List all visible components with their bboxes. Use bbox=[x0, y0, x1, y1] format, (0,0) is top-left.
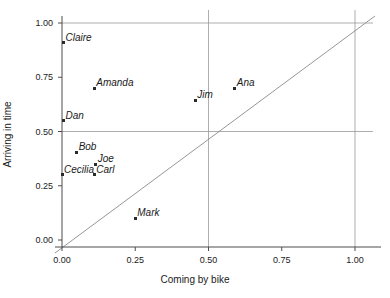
point-label: Claire bbox=[65, 32, 91, 43]
point-label: Cecilia bbox=[64, 164, 94, 175]
y-axis-title: Arriving in time bbox=[2, 85, 13, 185]
point-label: Amanda bbox=[96, 77, 133, 88]
x-tick-label-0: 0.00 bbox=[53, 255, 71, 265]
x-tick-label-4: 1.00 bbox=[346, 255, 364, 265]
point-label: Joe bbox=[98, 153, 114, 164]
x-tick-label-1: 0.25 bbox=[126, 255, 144, 265]
point-label: Ana bbox=[237, 77, 255, 88]
plot-area: ClaireAmandaAnaJimDanBobJoeCeciliaCarlMa… bbox=[62, 23, 355, 240]
y-tick-label-1: 0.25 bbox=[20, 181, 53, 191]
scatter-chart: 1.00 0.75 0.50 0.25 0.00 0.00 0.25 0.50 … bbox=[0, 0, 390, 298]
x-tick-label-2: 0.50 bbox=[200, 255, 218, 265]
y-tick-label-4: 1.00 bbox=[20, 18, 53, 28]
x-axis-title: Coming by bike bbox=[0, 274, 390, 285]
x-tick-label-3: 0.75 bbox=[273, 255, 291, 265]
y-tick-label-2: 0.50 bbox=[20, 127, 53, 137]
y-tick-label-0: 0.00 bbox=[20, 235, 53, 245]
point-label: Bob bbox=[79, 141, 97, 152]
point-label: Dan bbox=[65, 110, 83, 121]
y-tick-label-3: 0.75 bbox=[20, 72, 53, 82]
point-label: Carl bbox=[96, 164, 114, 175]
point-label: Mark bbox=[137, 207, 159, 218]
point-label: Jim bbox=[197, 89, 213, 100]
